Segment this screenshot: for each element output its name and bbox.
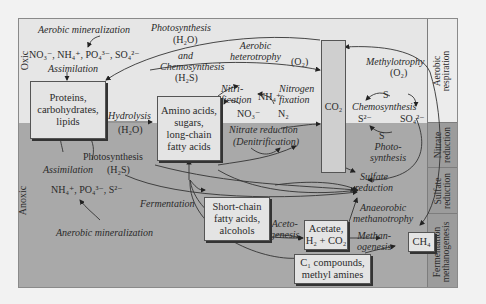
label-o2-heterotrophy: (O₂): [291, 56, 308, 67]
label-nh4: NH₄⁺: [258, 91, 281, 102]
label-photosynthesis-anoxic: Photosynthesis: [83, 151, 143, 162]
side-cell-aerobic-respiration: Aerobic respiration: [428, 19, 457, 123]
label-s2minus: S²⁻: [358, 113, 372, 124]
label-anoxic-nutrients: NH₄⁺, PO₄³⁻, S²⁻: [51, 184, 123, 195]
label-nitrate-reduction: Nitrate reduction: [229, 124, 298, 135]
label-hydrolysis: Hydrolysis: [108, 110, 151, 121]
side-cell-sulfate-reduction: Sulfate reduction: [428, 168, 457, 214]
label-h2o-hydrolysis: (H₂O): [118, 124, 143, 135]
box-c1-compounds: C₁ compounds, methyl amines: [294, 254, 371, 284]
side-cell-nitrate-reduction: Nitrate reduction: [428, 123, 457, 168]
label-h2o-top: (H₂O): [173, 34, 198, 45]
box-proteins: Proteins, carbohydrates, lipids: [30, 81, 106, 139]
box-short-chain: Short-chain fatty acids, alcohols: [204, 197, 270, 241]
label-so4: SO₄²⁻: [400, 113, 425, 124]
box-amino-acids: Amino acids, sugars, long-chain fatty ac…: [157, 96, 221, 161]
label-photosynthesis-top: Photosynthesis: [151, 22, 211, 33]
label-o2-methylotrophy: (O₂): [390, 67, 407, 78]
side-label: Fermentation methanogenesis: [434, 221, 452, 282]
label-photosynthesis-s: Photo- synthesis: [370, 141, 406, 163]
label-methanogenesis: Methan- ogenesis: [357, 230, 391, 252]
label-anaerobic-mineralization: Anerobic mineralization: [56, 227, 153, 238]
label-assimilation-anoxic: Assimilation: [43, 164, 93, 175]
anoxic-label: Anoxic: [17, 186, 28, 215]
label-s-bottom: S: [379, 130, 385, 141]
side-label: Aerobic respiration: [434, 50, 452, 91]
co2-column: CO₂: [321, 40, 346, 173]
label-and: and: [178, 50, 193, 61]
label-nitrification: Nitri- fication: [221, 83, 252, 105]
label-chemosynthesis-s: Chemosynthesis: [352, 101, 416, 112]
label-aerobic-heterotrophy: Aerobic heterotrophy: [230, 40, 281, 62]
label-fermentation: Fermentation: [140, 198, 194, 209]
label-n2: N₂: [278, 108, 289, 119]
label-acetogenesis: Aceto- genesis: [270, 218, 299, 240]
side-label: Nitrate reduction: [434, 127, 452, 163]
label-oxic-nutrients: NO₃⁻, NH₄⁺, PO₄³⁻, SO₄²⁻: [29, 49, 140, 60]
box-acetate: Acetate, H₂ + CO₂: [304, 220, 348, 250]
side-label: Sulfate reduction: [434, 173, 452, 209]
label-anaerobic-methanotrophy: Anaeorobic methanotrophy: [353, 202, 413, 224]
box-ch4: CH₄: [408, 232, 435, 252]
label-s-top: S: [383, 89, 389, 100]
label-aerobic-mineralization: Aerobic mineralization: [38, 24, 130, 35]
label-methylotrophy: Methylotrophy: [366, 56, 425, 67]
label-sulfate-reduction: Sulfate reduction: [355, 171, 393, 193]
label-denitrification: (Denitrification): [233, 136, 299, 147]
label-h2s-anoxic: (H₂S): [107, 164, 130, 175]
label-chemosynthesis-top: Chemosynthesis: [160, 61, 224, 72]
label-nitrogen-fixation: Nitrogen fixation: [279, 83, 314, 105]
label-h2s-top: (H₂S): [175, 72, 198, 83]
label-assimilation-oxic: Assimilation: [48, 63, 98, 74]
label-no3: NO₃⁻: [237, 108, 260, 119]
